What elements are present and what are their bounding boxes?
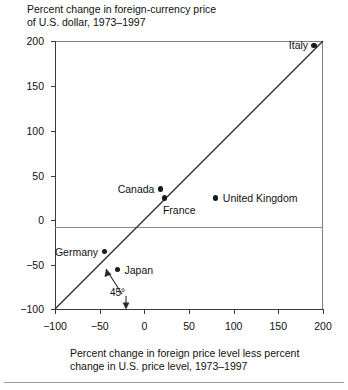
x-tick-150: 150 [278,309,279,314]
data-point-united-kingdom [213,195,218,200]
x-tick-50: 50 [189,309,190,314]
data-label-france: France [163,204,196,216]
y-tick-0: 0 [51,220,56,221]
x-tick-0: 0 [144,309,145,314]
chart-figure: Percent change in foreign-currency price… [0,0,348,390]
angle-annotation-label: 45° [110,287,125,298]
y-tick-label-0: 0 [38,214,44,226]
chart-title: Percent change in foreign-currency price… [27,3,317,29]
data-label-germany: Germany [55,246,98,258]
data-label-canada: Canada [118,183,155,195]
x-tick-100: 100 [234,309,235,314]
y-tick-label-150: 150 [26,80,44,92]
y-tick-label-50: 50 [32,170,44,182]
data-label-italy: Italy [289,39,308,51]
y-tick-label-100: 100 [26,125,44,137]
x-tick-label-50: 50 [183,320,195,332]
x-tick-neg100: −100 [55,309,56,314]
data-point-canada [158,186,163,191]
plot-area: 45° 200 150 100 50 0 −50 −100 −100 −50 [55,41,323,310]
y-tick-150: 150 [51,86,56,87]
forty-five-degree-line [55,41,323,310]
y-tick-label-200: 200 [26,35,44,47]
y-tick-200: 200 [51,41,56,42]
x-tick-label-150: 150 [270,320,288,332]
y-tick-100: 100 [51,131,56,132]
data-point-italy [311,43,316,48]
x-tick-neg50: −50 [100,309,101,314]
x-tick-label-neg100: −100 [43,320,67,332]
x-tick-label-neg50: −50 [91,320,109,332]
footer-divider [4,382,344,383]
y-tick-neg50: −50 [51,265,56,266]
x-tick-label-0: 0 [141,320,147,332]
x-tick-label-100: 100 [225,320,243,332]
y-tick-label-neg100: −100 [20,303,44,315]
y-tick-label-neg50: −50 [26,259,44,271]
y-tick-50: 50 [51,176,56,177]
data-label-japan: Japan [125,264,154,276]
x-tick-200: 200 [323,309,324,314]
data-point-germany [102,249,107,254]
x-tick-label-200: 200 [314,320,332,332]
x-axis-caption: Percent change in foreign price level le… [70,347,332,373]
data-label-united-kingdom: United Kingdom [223,192,298,204]
